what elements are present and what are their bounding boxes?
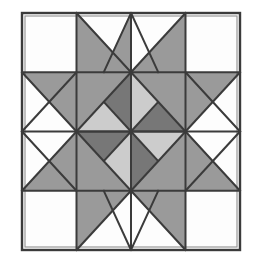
patch-r1c4-plain	[186, 13, 241, 72]
patch-r4c4-plain	[186, 191, 241, 250]
quilt-block-svg	[0, 0, 261, 266]
quilt-block	[22, 13, 240, 250]
patch-r1c1-plain	[22, 13, 77, 72]
patch-r4c1-plain	[22, 191, 77, 250]
quilt-block-figure	[0, 0, 261, 266]
